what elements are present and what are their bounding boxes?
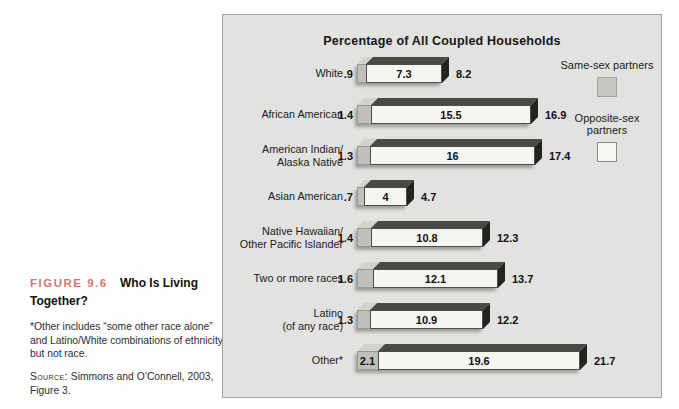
bar: 7.3 .9 8.2 — [357, 64, 442, 83]
figure-caption: FIGURE 9.6 Who Is Living Together? *Othe… — [30, 274, 226, 397]
opposite-sex-value: 12.1 — [425, 273, 446, 285]
opposite-sex-value: 19.6 — [468, 355, 489, 367]
opposite-sex-segment: 19.6 — [378, 351, 580, 370]
same-sex-value: 1.4 — [293, 109, 353, 121]
same-sex-segment — [357, 105, 371, 124]
opposite-sex-value: 10.9 — [416, 314, 437, 326]
bar-row: Latino (of any race) 10.9 1.3 12.2 — [223, 299, 661, 340]
opposite-sex-value: 4 — [382, 191, 388, 203]
legend-item-opposite-sex: Opposite-sex partners — [567, 112, 647, 162]
same-sex-value: .7 — [293, 191, 353, 203]
legend-label-same-sex: Same-sex partners — [561, 59, 654, 72]
figure-number: FIGURE 9.6 — [30, 277, 108, 289]
chart-title: Percentage of All Coupled Households — [223, 34, 661, 48]
bar: 4 .7 4.7 — [357, 187, 407, 206]
bar-top-face-opposite — [371, 98, 538, 105]
figure-footnote: *Other includes “some other race alone” … — [30, 320, 226, 361]
same-sex-value: 1.4 — [293, 232, 353, 244]
opposite-sex-value: 15.5 — [440, 109, 461, 121]
same-sex-swatch — [597, 77, 617, 97]
opposite-sex-segment: 4 — [364, 187, 407, 206]
opposite-sex-swatch — [597, 142, 617, 162]
category-label: Other* — [223, 354, 343, 367]
total-value: 8.2 — [456, 68, 471, 80]
bar-row: Asian American 4 .7 4.7 — [223, 176, 661, 217]
source-label: Source: — [30, 371, 68, 382]
bar-row: Native Hawaiian/ Other Pacific Islander … — [223, 217, 661, 258]
legend-item-same-sex: Same-sex partners — [561, 59, 654, 97]
bar-top-face-opposite — [370, 303, 490, 310]
bar-row: Two or more races 12.1 1.6 13.7 — [223, 258, 661, 299]
total-value: 21.7 — [594, 355, 615, 367]
opposite-sex-segment: 15.5 — [371, 105, 531, 124]
same-sex-value: 1.3 — [293, 314, 353, 326]
total-value: 12.3 — [497, 232, 518, 244]
opposite-sex-value: 7.3 — [396, 68, 411, 80]
bar: 15.5 1.4 16.9 — [357, 105, 531, 124]
same-sex-segment — [357, 187, 364, 206]
bar-top-face-opposite — [373, 262, 505, 269]
chart-panel: Percentage of All Coupled Households Whi… — [222, 14, 662, 398]
opposite-sex-value: 16 — [446, 150, 458, 162]
bar: 10.9 1.3 12.2 — [357, 310, 483, 329]
same-sex-segment — [357, 269, 373, 288]
total-value: 12.2 — [497, 314, 518, 326]
bar: 12.1 1.6 13.7 — [357, 269, 498, 288]
bar: 19.6 2.1 21.7 — [357, 351, 580, 370]
legend: Same-sex partners Opposite-sex partners — [559, 59, 655, 162]
opposite-sex-segment: 7.3 — [366, 64, 442, 83]
total-value: 4.7 — [421, 191, 436, 203]
bar: 16 1.3 17.4 — [357, 146, 535, 165]
bar-top-face-opposite — [370, 139, 542, 146]
same-sex-segment — [357, 64, 366, 83]
same-sex-segment — [357, 228, 371, 247]
bar-top-face-opposite — [378, 344, 587, 351]
figure-heading: FIGURE 9.6 Who Is Living Together? — [30, 274, 226, 310]
same-sex-value: 2.1 — [357, 355, 378, 367]
same-sex-segment — [357, 146, 370, 165]
opposite-sex-segment: 10.9 — [370, 310, 483, 329]
textbook-figure-page: FIGURE 9.6 Who Is Living Together? *Othe… — [0, 0, 679, 409]
opposite-sex-segment: 16 — [370, 146, 535, 165]
bar-top-face-opposite — [366, 57, 449, 64]
same-sex-value: 1.3 — [293, 150, 353, 162]
opposite-sex-segment: 10.8 — [371, 228, 483, 247]
total-value: 13.7 — [512, 273, 533, 285]
bar: 10.8 1.4 12.3 — [357, 228, 483, 247]
bar-top-face-opposite — [371, 221, 490, 228]
same-sex-segment — [357, 310, 370, 329]
figure-source: Source:Simmons and O’Connell, 2003, Figu… — [30, 370, 226, 397]
same-sex-value: 1.6 — [293, 273, 353, 285]
opposite-sex-segment: 12.1 — [373, 269, 498, 288]
legend-label-opposite-sex: Opposite-sex partners — [567, 112, 647, 137]
same-sex-value: .9 — [293, 68, 353, 80]
opposite-sex-value: 10.8 — [416, 232, 437, 244]
bar-row: Other* 19.6 2.1 21.7 — [223, 340, 661, 381]
